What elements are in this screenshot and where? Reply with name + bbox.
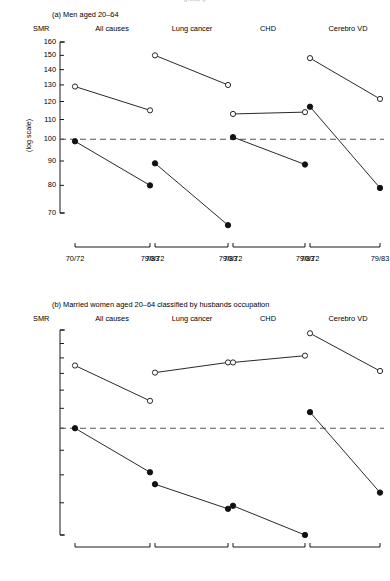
y-tick-label: 120 [30,98,56,106]
group-header-lung-cancer: Lung cancer [172,314,213,323]
data-point-filled-circle [302,532,307,537]
group-header-chd: CHD [260,314,276,323]
data-point-open-circle [307,331,312,336]
panel-a: (a) Men aged 20–64 SMR 70809010011012013… [0,0,390,290]
data-point-filled-circle [225,506,230,511]
data-point-open-circle [152,370,157,375]
data-point-filled-circle [307,104,312,109]
panel-b: (b) Married women aged 20–64 classified … [0,290,390,581]
data-point-filled-circle [230,503,235,508]
panel-a-plot [0,0,390,290]
data-point-open-circle [147,108,152,113]
y-tick-label: 110 [30,116,56,124]
data-point-open-circle [307,56,312,61]
y-tick-label: 150 [30,51,56,59]
x-tick-label: 79/83 [371,254,390,263]
data-point-open-circle [302,110,307,115]
data-point-filled-circle [147,470,152,475]
data-point-open-circle [147,398,152,403]
data-point-filled-circle [72,139,77,144]
data-point-filled-circle [152,482,157,487]
y-tick-label: 130 [30,81,56,89]
x-tick-label: 70/72 [146,254,165,263]
x-tick-label: 70/72 [224,254,243,263]
x-tick-label: 70/72 [66,254,85,263]
data-point-open-circle [152,53,157,58]
data-point-open-circle [230,360,235,365]
group-header-all-causes: All causes [95,314,129,323]
panel-b-plot [0,290,390,581]
y-tick-label: 90 [30,157,56,165]
data-point-open-circle [225,360,230,365]
data-point-open-circle [377,368,382,373]
data-point-filled-circle [377,490,382,495]
group-header-lung-cancer: Lung cancer [172,24,213,33]
data-point-open-circle [225,82,230,87]
group-header-all-causes: All causes [95,24,129,33]
data-point-filled-circle [307,409,312,414]
data-point-filled-circle [377,185,382,190]
y-tick-label: 70 [30,209,56,217]
group-header-cerebro-vd: Cerebro VD [328,24,367,33]
y-axis-title: (log scale) [24,118,33,151]
figure-root: group p (a) Men aged 20–64 SMR 708090100… [0,0,390,581]
group-header-chd: CHD [260,24,276,33]
data-point-filled-circle [147,183,152,188]
data-point-filled-circle [230,134,235,139]
data-point-filled-circle [72,426,77,431]
data-point-open-circle [230,111,235,116]
data-point-open-circle [72,84,77,89]
data-point-filled-circle [152,161,157,166]
y-tick-label: 160 [30,38,56,46]
group-header-cerebro-vd: Cerebro VD [328,314,367,323]
data-point-filled-circle [225,222,230,227]
data-point-open-circle [302,353,307,358]
y-tick-label: 100 [30,135,56,143]
data-point-open-circle [72,363,77,368]
x-tick-label: 70/72 [301,254,320,263]
data-point-open-circle [377,96,382,101]
y-tick-label: 140 [30,66,56,74]
data-point-filled-circle [302,162,307,167]
y-tick-label: 80 [30,181,56,189]
